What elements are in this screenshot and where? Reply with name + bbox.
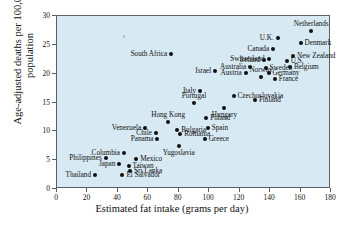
x-tick bbox=[208, 188, 209, 192]
data-point[interactable] bbox=[127, 164, 131, 168]
x-tick bbox=[330, 188, 331, 192]
data-point[interactable] bbox=[192, 101, 196, 105]
data-point-label: Canada bbox=[248, 45, 270, 53]
data-point[interactable] bbox=[232, 94, 236, 98]
data-point-label: U.K. bbox=[260, 34, 274, 42]
x-tick-label: 140 bbox=[257, 193, 281, 202]
data-point-label: Norway bbox=[249, 66, 272, 74]
data-point-label: Spain bbox=[212, 124, 228, 132]
data-point[interactable] bbox=[253, 98, 257, 102]
data-point[interactable] bbox=[122, 151, 126, 155]
data-point[interactable] bbox=[155, 137, 159, 141]
data-point-label: Poland bbox=[210, 114, 230, 122]
data-point-label: Thailand bbox=[66, 171, 92, 179]
data-point[interactable] bbox=[178, 132, 182, 136]
data-point[interactable] bbox=[166, 120, 170, 124]
x-tick-label: 100 bbox=[196, 193, 220, 202]
x-tick bbox=[300, 188, 301, 192]
stray-mark bbox=[123, 35, 125, 38]
y-tick-label: 20 bbox=[28, 68, 50, 77]
data-point[interactable] bbox=[222, 106, 226, 110]
data-point-label: Hong Kong bbox=[151, 111, 185, 119]
y-tick-label: 30 bbox=[28, 11, 50, 20]
y-tick-label: 25 bbox=[28, 39, 50, 48]
x-tick bbox=[56, 188, 57, 192]
data-point[interactable] bbox=[134, 157, 138, 161]
data-point[interactable] bbox=[285, 59, 289, 63]
y-tick-label: 10 bbox=[28, 126, 50, 135]
data-point-label: New Zealand bbox=[297, 52, 336, 60]
plot-area: South AfricaIsraelNetherlandsDenmarkU.K.… bbox=[56, 15, 330, 188]
data-point-label: Panama bbox=[131, 135, 154, 143]
data-point-label: South Africa bbox=[131, 50, 168, 58]
data-point[interactable] bbox=[117, 162, 121, 166]
data-point[interactable] bbox=[271, 47, 275, 51]
x-tick-label: 80 bbox=[166, 193, 190, 202]
x-tick-label: 20 bbox=[74, 193, 98, 202]
x-tick-label: 60 bbox=[135, 193, 159, 202]
data-point[interactable] bbox=[169, 52, 173, 56]
scatter-chart-figure: Age-adjusted deaths per 100,000 populati… bbox=[0, 0, 344, 227]
data-point-label: Japan bbox=[99, 160, 115, 168]
data-point[interactable] bbox=[120, 173, 124, 177]
data-point-label: Israel bbox=[195, 67, 211, 75]
data-point[interactable] bbox=[203, 137, 207, 141]
x-tick bbox=[147, 188, 148, 192]
x-tick bbox=[86, 188, 87, 192]
data-point[interactable] bbox=[154, 131, 158, 135]
data-point-label: Portugal bbox=[182, 92, 206, 100]
data-point-label: France bbox=[279, 75, 299, 83]
data-point[interactable] bbox=[276, 36, 280, 40]
x-tick bbox=[269, 188, 270, 192]
x-tick-label: 160 bbox=[288, 193, 312, 202]
y-tick-label: 5 bbox=[28, 155, 50, 164]
data-point[interactable] bbox=[262, 58, 266, 62]
data-point[interactable] bbox=[175, 128, 179, 132]
x-tick-label: 180 bbox=[318, 193, 342, 202]
x-tick-label: 40 bbox=[105, 193, 129, 202]
x-axis-title: Estimated fat intake (grams per day) bbox=[0, 203, 344, 214]
data-point[interactable] bbox=[309, 29, 313, 33]
x-tick bbox=[178, 188, 179, 192]
data-point-label: Austria bbox=[221, 69, 242, 77]
data-point[interactable] bbox=[259, 75, 263, 79]
x-tick bbox=[239, 188, 240, 192]
data-point[interactable] bbox=[177, 144, 181, 148]
data-point[interactable] bbox=[204, 116, 208, 120]
data-point-label: Greece bbox=[209, 135, 229, 143]
data-point[interactable] bbox=[267, 57, 271, 61]
data-point-label: Netherlands bbox=[294, 20, 329, 28]
y-tick-label: 0 bbox=[28, 184, 50, 193]
data-point-label: Denmark bbox=[305, 39, 332, 47]
data-point-label: El Salvador bbox=[126, 171, 160, 179]
data-point[interactable] bbox=[244, 71, 248, 75]
data-point-label: Finland bbox=[259, 96, 281, 104]
x-tick-label: 0 bbox=[44, 193, 68, 202]
x-tick-label: 120 bbox=[227, 193, 251, 202]
data-point[interactable] bbox=[213, 69, 217, 73]
data-point[interactable] bbox=[273, 77, 277, 81]
data-point[interactable] bbox=[93, 173, 97, 177]
data-point-label: Yugoslavia bbox=[163, 149, 195, 157]
data-point-label: Philippines bbox=[69, 154, 101, 162]
data-point[interactable] bbox=[299, 41, 303, 45]
y-tick-label: 15 bbox=[28, 97, 50, 106]
x-tick bbox=[117, 188, 118, 192]
